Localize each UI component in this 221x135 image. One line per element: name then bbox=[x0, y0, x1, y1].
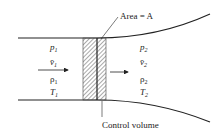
control-volume-label: Control volume bbox=[102, 120, 159, 130]
duct-top-wall bbox=[18, 14, 210, 38]
svg-text:T2: T2 bbox=[140, 87, 148, 98]
control-volume-region bbox=[83, 38, 106, 100]
svg-text:p1: p1 bbox=[49, 42, 58, 53]
svg-text:p2: p2 bbox=[139, 42, 148, 53]
area-leader-line bbox=[101, 17, 118, 39]
control-volume-diagram: Area = A Control volume p1 v̄1 ρ1 T1 p2 … bbox=[0, 0, 221, 135]
svg-text:v̄2: v̄2 bbox=[140, 57, 147, 68]
duct-bottom-wall bbox=[18, 100, 210, 122]
outlet-state-labels: p2 v̄2 ρ2 T2 bbox=[139, 42, 148, 98]
area-label: Area = A bbox=[120, 11, 154, 21]
svg-text:ρ2: ρ2 bbox=[140, 74, 148, 85]
svg-text:ρ1: ρ1 bbox=[50, 74, 58, 85]
svg-text:v̄1: v̄1 bbox=[50, 57, 57, 68]
svg-text:T1: T1 bbox=[50, 87, 58, 98]
